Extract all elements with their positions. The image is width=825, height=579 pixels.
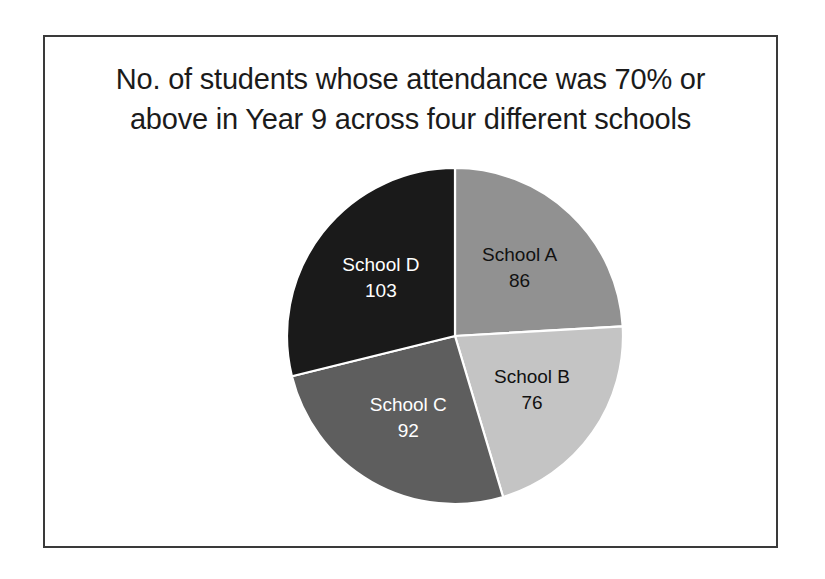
chart-frame: No. of students whose attendance was 70%… xyxy=(43,35,778,548)
pie-slice-label-school-b: School B xyxy=(494,366,570,387)
chart-title-line-2: above in Year 9 across four different sc… xyxy=(63,99,758,139)
chart-title-line-1: No. of students whose attendance was 70%… xyxy=(63,59,758,99)
pie-slice-value-school-b: 76 xyxy=(521,392,542,413)
pie-slice-value-school-a: 86 xyxy=(509,270,530,291)
pie-slice-label-school-d: School D xyxy=(342,254,419,275)
pie-slice-value-school-d: 103 xyxy=(365,280,397,301)
pie-slice-group xyxy=(287,168,623,504)
pie-slice-value-school-c: 92 xyxy=(398,420,419,441)
pie-chart: School A86School B76School C92School D10… xyxy=(285,166,625,506)
pie-slice-label-school-a: School A xyxy=(482,244,557,265)
pie-slice-label-school-c: School C xyxy=(370,394,447,415)
chart-title: No. of students whose attendance was 70%… xyxy=(45,59,776,139)
pie-chart-svg: School A86School B76School C92School D10… xyxy=(285,166,625,506)
